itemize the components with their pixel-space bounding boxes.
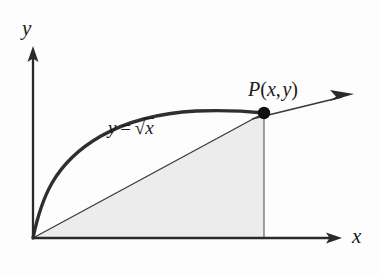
x-axis-label: x — [352, 226, 361, 247]
point-p-close-paren: ) — [291, 78, 298, 100]
radical-sign: √ — [135, 117, 145, 138]
point-p-open-paren: ( — [260, 78, 267, 100]
point-p-marker — [258, 107, 270, 119]
curve-equation-lhs: y — [108, 117, 116, 138]
point-p-comma: , — [276, 78, 281, 100]
radicand: x — [145, 117, 153, 138]
diagram-canvas — [0, 0, 379, 275]
sqrt-curve-figure: y x P(x, y) y = √x — [0, 0, 379, 275]
curve-equation-label: y = √x — [108, 117, 154, 137]
point-p-y: y — [282, 78, 291, 100]
y-axis-label: y — [22, 18, 31, 39]
radical-sqrt-icon: √x — [135, 117, 154, 137]
curve-equation-equals: = — [120, 117, 131, 138]
point-p-label: P(x, y) — [248, 79, 298, 99]
radical-overbar — [143, 118, 154, 119]
point-p-x: x — [267, 78, 276, 100]
extension-ray-arrowhead-icon — [330, 90, 354, 101]
point-p-name: P — [248, 78, 260, 100]
